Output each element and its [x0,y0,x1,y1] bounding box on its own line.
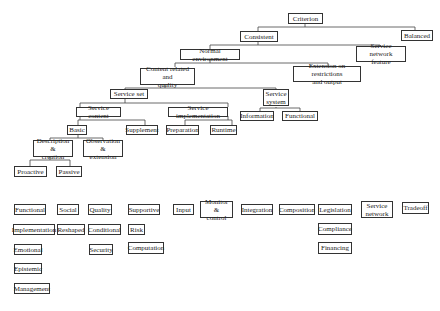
leaf-reshaped: Reshaped [57,224,85,235]
node-description-creation: Description & creation [33,140,73,157]
leaf-legislation: Legislation [318,204,352,215]
node-service-network-feature: Service network feature [356,46,406,62]
leaf-epistemic: Epistemic [14,263,42,274]
leaf-monitor-control: Monitor & control [200,201,233,218]
node-runtime: Runtime [210,125,237,135]
leaf-management: Management [14,283,50,294]
leaf-supportive: Supportive [128,204,160,215]
node-preparation: Preparation [166,125,199,135]
node-service-set: Service set [110,89,148,99]
node-extension-restrictions: Extension on restrictions and output [293,66,361,82]
leaf-integration: Integration [241,204,273,215]
leaf-functional: Functional [14,204,46,215]
leaf-tradeoff: Tradeoff [402,202,429,214]
node-supplement: Supplement [126,125,158,135]
node-information: Information [240,111,274,121]
leaf-input: Input [173,204,194,215]
leaf-quality: Quality [88,204,112,215]
leaf-security: Security [89,244,113,255]
leaf-emotional: Emotional [14,244,42,255]
leaf-social: Social [57,204,79,215]
leaf-conditional: Conditional [88,224,121,235]
node-normal-environment: Normal environment [180,49,240,60]
node-basic: Basic [67,125,87,135]
leaf-service-network: Service network [361,201,393,218]
node-passive: Passive [56,166,82,177]
leaf-financing: Financing [318,242,352,254]
node-service-content: Service content [76,107,121,117]
node-observation-extension: Observation & extension [83,140,123,157]
node-criterion: Criterion [288,13,323,24]
leaf-composition: Composition [279,204,315,215]
node-service-system: Service system [263,89,289,106]
leaf-compliance: Compliance [318,223,352,235]
leaf-implementation: Implementation [13,224,55,235]
criterion-tree-diagram: Criterion Consistent Balanced Normal env… [0,0,440,311]
leaf-computation: Computation [128,242,164,254]
node-service-implementation: Service implementation [168,107,228,117]
node-balanced: Balanced [401,30,433,41]
leaf-risk: Risk [128,224,145,235]
node-content-related-quality: Content related and quality [140,68,195,85]
node-functional-system: Functional [282,111,318,121]
node-proactive: Proactive [14,166,47,177]
node-consistent: Consistent [240,31,278,42]
